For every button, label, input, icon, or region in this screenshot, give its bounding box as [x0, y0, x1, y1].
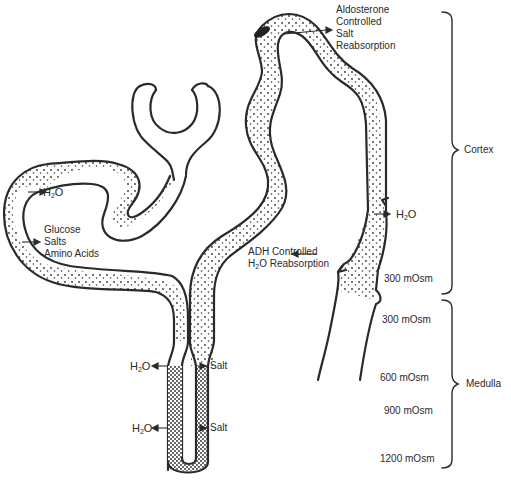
- osmolarity-1200: 1200 mOsm: [380, 453, 434, 465]
- osmolarity-600: 600 mOsm: [380, 372, 429, 384]
- osmolarity-900: 900 mOsm: [384, 405, 433, 417]
- adh-label: ADH Controlled H2O Reabsorption: [248, 246, 329, 270]
- loop-salt-upper-label: Salt: [210, 360, 227, 372]
- proximal-reabsorbed-label: Glucose Salts Amino Acids: [44, 224, 99, 260]
- osmolarity-cortex-300: 300 mOsm: [384, 273, 433, 285]
- loop-of-henle-fill: [168, 366, 208, 471]
- loop-h2o-upper-label: H2O: [130, 360, 150, 372]
- bowmans-capsule: [132, 86, 219, 180]
- medulla-brace: [442, 300, 458, 468]
- loop-h2o-lower-label: H2O: [132, 422, 152, 434]
- region-medulla-label: Medulla: [466, 378, 501, 390]
- collecting-duct-fill: [336, 210, 386, 300]
- h2o-proximal-label: H2O: [43, 186, 63, 198]
- loop-salt-lower-label: Salt: [210, 422, 227, 434]
- h2o-collecting-label: H2O: [396, 208, 416, 220]
- region-cortex-label: Cortex: [464, 144, 493, 156]
- aldosterone-label: Aldosterone Controlled Salt Reabsorption: [336, 4, 395, 52]
- cortex-brace: [442, 12, 458, 294]
- osmolarity-medulla-300: 300 mOsm: [382, 314, 431, 326]
